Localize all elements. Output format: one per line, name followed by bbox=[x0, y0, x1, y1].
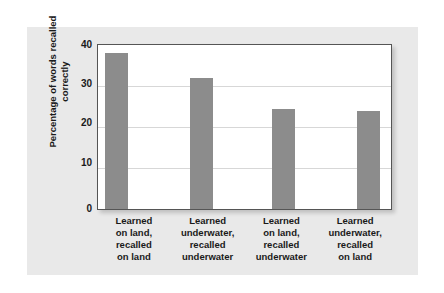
x-label-3-line-4: on land bbox=[319, 251, 391, 263]
bar-learned-underwater-recalled-on-land bbox=[357, 111, 380, 209]
gridline-30 bbox=[98, 86, 391, 87]
y-tick-label-10: 10 bbox=[66, 158, 92, 168]
x-label-2-line-3: recalled bbox=[246, 239, 318, 251]
y-tick-label-0: 0 bbox=[66, 204, 92, 214]
bar-learned-on-land-recalled-underwater bbox=[272, 109, 295, 209]
y-tick-label-40: 40 bbox=[66, 40, 92, 50]
x-label-3-line-1: Learned bbox=[319, 215, 391, 227]
x-label-1: Learned underwater, recalled underwater bbox=[171, 215, 245, 271]
x-label-2-line-2: on land, bbox=[246, 227, 318, 239]
gridline-20 bbox=[98, 127, 391, 128]
x-label-3: Learned underwater, recalled on land bbox=[318, 215, 392, 271]
bar-chart-figure: Percentage of words recalled correctly 4… bbox=[0, 0, 444, 293]
x-label-2: Learned on land, recalled underwater bbox=[245, 215, 319, 271]
x-label-3-line-3: recalled bbox=[319, 239, 391, 251]
gridline-10 bbox=[98, 168, 391, 169]
y-axis-title-line-1: Percentage of words bbox=[47, 54, 58, 147]
x-label-1-line-1: Learned bbox=[172, 215, 244, 227]
x-label-2-line-1: Learned bbox=[246, 215, 318, 227]
y-tick-label-30: 30 bbox=[66, 79, 92, 89]
x-label-1-line-2: underwater, bbox=[172, 227, 244, 239]
x-label-0-line-1: Learned bbox=[98, 215, 170, 227]
x-label-0-line-4: on land bbox=[98, 251, 170, 263]
bar-learned-underwater-recalled-underwater bbox=[190, 78, 213, 209]
x-axis-labels: Learned on land, recalled on land Learne… bbox=[97, 215, 392, 271]
y-axis-ticks: 40 30 20 10 0 bbox=[60, 0, 92, 293]
plot-area bbox=[97, 44, 392, 210]
x-label-2-line-4: underwater bbox=[246, 251, 318, 263]
x-label-0: Learned on land, recalled on land bbox=[97, 215, 171, 271]
bar-learned-on-land-recalled-on-land bbox=[105, 53, 128, 209]
x-label-0-line-3: recalled bbox=[98, 239, 170, 251]
y-tick-label-20: 20 bbox=[66, 118, 92, 128]
x-label-1-line-4: underwater bbox=[172, 251, 244, 263]
x-label-3-line-2: underwater, bbox=[319, 227, 391, 239]
x-label-0-line-2: on land, bbox=[98, 227, 170, 239]
x-label-1-line-3: recalled bbox=[172, 239, 244, 251]
